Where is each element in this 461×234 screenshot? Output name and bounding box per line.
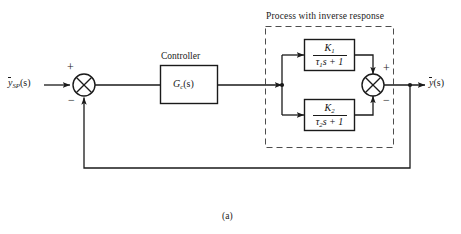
feedback-path [84, 85, 410, 168]
upper-denominator: τ1s + 1 [313, 56, 347, 68]
upper-output-to-junction [355, 55, 374, 74]
setpoint-subscript: SP [12, 82, 20, 89]
upper-transfer-function-label: K1 τ1s + 1 [304, 39, 355, 71]
upper-denominator-rest: s + 1 [323, 56, 344, 67]
process-junction-plus-sign: + [383, 62, 390, 74]
block-diagram-figure: ySP(s) + − Controller Gc(s) Process with… [0, 0, 461, 234]
diagram-canvas [0, 0, 461, 234]
controller-argument: (s) [183, 78, 194, 89]
figure-caption: (a) [222, 212, 233, 222]
upper-gain-subscript: 1 [331, 46, 334, 53]
process-group-title: Process with inverse response [266, 12, 384, 22]
error-junction-plus-sign: + [67, 61, 74, 73]
controller-transfer-function-label: Gc(s) [173, 79, 194, 90]
lower-denominator-rest: s + 1 [323, 116, 344, 127]
setpoint-symbol: y [8, 78, 12, 88]
output-argument: (s) [433, 77, 444, 88]
lower-denominator: τ2s + 1 [313, 116, 347, 128]
lower-transfer-function-label: K2 τ2s + 1 [304, 99, 355, 131]
output-label: y(s) [429, 78, 444, 88]
controller-title: Controller [161, 52, 200, 62]
lower-output-to-junction [355, 96, 374, 115]
setpoint-label: ySP(s) [8, 78, 31, 89]
setpoint-argument: (s) [20, 77, 31, 88]
process-junction-minus-sign: − [383, 94, 390, 106]
lower-numerator: K2 [321, 103, 337, 115]
error-junction-minus-sign: − [68, 94, 75, 106]
upper-numerator: K1 [321, 43, 337, 55]
lower-gain-subscript: 2 [331, 106, 334, 113]
output-symbol: y [429, 78, 433, 88]
